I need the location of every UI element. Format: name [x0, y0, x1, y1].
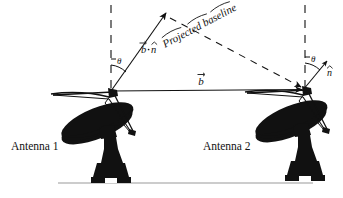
- svg-text:b: b: [141, 44, 146, 55]
- baseline-vector-label: b: [198, 73, 206, 87]
- svg-text:n: n: [327, 67, 332, 78]
- unit-normal-label: n: [327, 66, 333, 78]
- interferometer-diagram: θ θ b b n n Projected baseline Antenna 1: [0, 0, 343, 198]
- theta-left-arc: [111, 65, 126, 72]
- antenna-1-label: Antenna 1: [11, 140, 59, 152]
- projected-baseline-label: Projected baseline: [159, 0, 239, 50]
- svg-text:n: n: [151, 44, 156, 55]
- antenna-1-glyph: [51, 88, 139, 183]
- b-dot-n-label: b n: [140, 41, 158, 55]
- diagram-canvas: θ θ b b n n Projected baseline Antenna 1: [0, 0, 343, 198]
- theta-left-label: θ: [117, 56, 122, 66]
- unit-normal-vector-arrow: [303, 61, 327, 90]
- antenna-2-label: Antenna 2: [203, 140, 251, 152]
- theta-right-arc: [305, 63, 320, 70]
- svg-text:Projected baseline: Projected baseline: [159, 1, 238, 51]
- theta-right-label: θ: [311, 54, 316, 64]
- dot-operator-glyph: [148, 49, 150, 51]
- svg-text:b: b: [198, 75, 204, 87]
- antenna-2-glyph: [245, 86, 333, 181]
- b-dot-n-vector-arrow: [111, 13, 166, 91]
